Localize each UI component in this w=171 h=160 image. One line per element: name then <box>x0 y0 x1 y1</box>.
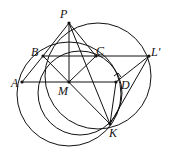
label-C: C <box>96 45 104 57</box>
diagram-canvas <box>0 0 171 160</box>
circle-1 <box>45 23 151 129</box>
point-P <box>67 21 70 24</box>
segment-BK <box>43 56 110 124</box>
label-M: M <box>58 85 68 97</box>
label-A: A <box>11 77 18 89</box>
label-B: B <box>31 46 38 58</box>
label-L: L' <box>151 46 160 58</box>
segment-MC <box>69 56 96 82</box>
geometry-diagram: PBCL'AMDK <box>0 0 171 160</box>
segment-AB <box>22 56 43 82</box>
point-D <box>114 80 117 83</box>
segment-PK <box>69 23 110 124</box>
label-D: D <box>121 79 130 91</box>
segment-PB <box>43 23 69 56</box>
point-A <box>20 80 23 83</box>
label-P: P <box>60 8 67 20</box>
label-K: K <box>109 127 117 139</box>
point-B <box>41 54 44 57</box>
